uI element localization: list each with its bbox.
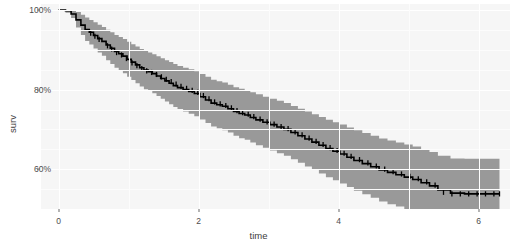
gridline-y-minor xyxy=(41,70,510,71)
gridline-y-major xyxy=(41,90,510,91)
gridline-y-minor xyxy=(41,189,510,190)
x-axis-title: time xyxy=(0,230,517,241)
gridline-x-minor xyxy=(129,4,130,209)
gridline-y-minor xyxy=(41,50,510,51)
x-tick-label: 4 xyxy=(336,216,341,226)
y-axis-title: surv xyxy=(7,94,18,154)
gridline-y-major xyxy=(41,10,510,11)
x-tick-label: 6 xyxy=(476,216,481,226)
gridline-y-minor xyxy=(41,30,510,31)
gridline-x-major xyxy=(59,4,60,209)
gridline-x-minor xyxy=(269,4,270,209)
survival-plot: 60%80%100% surv 0246 time xyxy=(0,0,517,247)
gridline-y-minor xyxy=(41,149,510,150)
x-tick-label: 0 xyxy=(56,216,61,226)
x-tick-mark xyxy=(338,209,339,212)
x-tick-mark xyxy=(58,209,59,212)
x-tick-mark xyxy=(198,209,199,212)
gridline-x-major xyxy=(479,4,480,209)
y-tick-mark xyxy=(37,10,40,11)
y-tick-mark xyxy=(37,89,40,90)
x-tick-label: 2 xyxy=(196,216,201,226)
gridline-y-minor xyxy=(41,129,510,130)
chart-canvas xyxy=(41,4,510,209)
y-tick-label: 100% xyxy=(29,5,51,15)
x-tick-mark xyxy=(478,209,479,212)
gridline-y-major xyxy=(41,169,510,170)
gridline-y-minor xyxy=(41,110,510,111)
gridline-x-major xyxy=(199,4,200,209)
gridline-x-minor xyxy=(409,4,410,209)
gridline-x-major xyxy=(339,4,340,209)
plot-panel xyxy=(41,4,510,209)
y-tick-mark xyxy=(37,169,40,170)
